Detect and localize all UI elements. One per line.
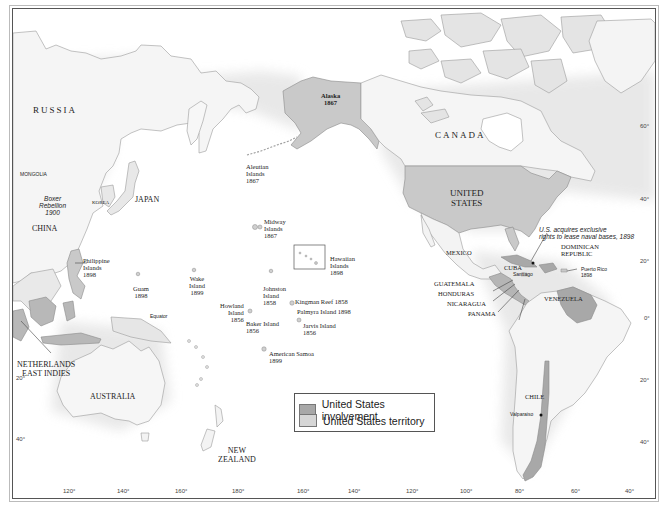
lat-tick-right: 40°	[640, 439, 649, 445]
lat-tick-right: 20°	[640, 377, 649, 383]
lon-tick: 100°	[460, 488, 472, 494]
asia-landmass	[13, 31, 259, 283]
label-australia: AUSTRALIA	[90, 393, 135, 402]
label-china: CHINA	[32, 225, 57, 234]
label-nicaragua: NICARAGUA	[447, 300, 486, 307]
jarvis-dot	[297, 318, 301, 322]
label-united-states: UNITED STATES	[450, 189, 484, 209]
lon-tick: 140°	[348, 488, 360, 494]
label-puerto-rico: Puerto Rico 1898	[581, 267, 607, 278]
label-santiago: Santiago	[513, 272, 533, 278]
label-johnston-island: Johnston Island 1858	[263, 285, 286, 306]
lon-tick: 60°	[571, 488, 580, 494]
samoa-dot	[262, 347, 266, 351]
lon-tick: 140°	[117, 488, 129, 494]
legend-label-territory: United States territory	[323, 415, 425, 427]
label-mongolia: MONGOLIA	[20, 172, 47, 178]
johnston-dot	[269, 269, 273, 273]
lon-tick: 180°	[232, 488, 244, 494]
label-equator: Equator	[150, 314, 168, 320]
label-aleutian-islands: Aleutian Islands 1867	[246, 163, 268, 184]
howland-dot	[248, 309, 252, 313]
map-legend: United States involvement United States …	[294, 393, 435, 432]
lon-tick: 80°	[515, 488, 524, 494]
lon-tick: 120°	[406, 488, 418, 494]
label-new-zealand: NEW ZEALAND	[218, 447, 256, 465]
label-jarvis-island: Jarvis Island 1856	[303, 322, 336, 336]
label-wake-island: Wake Island 1899	[189, 275, 205, 296]
label-korea: KOREA	[92, 200, 109, 206]
lat-tick-left: 20°	[16, 375, 25, 381]
lon-tick: 160°	[175, 488, 187, 494]
label-honduras: HONDURAS	[438, 290, 474, 297]
label-mexico: MEXICO	[446, 249, 472, 256]
lat-tick-right: 0°	[644, 315, 650, 321]
lat-tick-right: 60°	[640, 123, 649, 129]
label-palmyra-island: Palmyra Island 1898	[297, 308, 351, 315]
label-kingman-reef: Kingman Reef 1858	[295, 298, 348, 305]
label-chile: CHILE	[525, 393, 544, 400]
lat-tick-right: 20°	[640, 258, 649, 264]
label-naval-bases-note: U.S. acquires exclusive rights to lease …	[539, 226, 634, 240]
valparaiso-dot	[540, 414, 543, 417]
santiago-dot	[532, 262, 535, 265]
label-alaska: Alaska 1867	[321, 92, 340, 106]
label-dominican-republic: DOMINICAN REPUBLIC	[561, 243, 599, 257]
legend-swatch-territory	[299, 414, 317, 427]
label-venezuela: VENEZUELA	[544, 295, 583, 302]
label-guatemala: GUATEMALA	[434, 280, 474, 287]
label-howland-island: Howland Island 1856	[220, 302, 244, 323]
label-philippine-islands: Philippine Islands 1898	[83, 257, 110, 278]
label-hawaiian-islands: Hawaiian Islands 1898	[330, 255, 355, 276]
label-russia: RUSSIA	[33, 106, 77, 116]
lat-tick-left: 40°	[16, 436, 25, 442]
legend-item-territory: United States territory	[299, 414, 425, 427]
label-guam: Guam 1898	[133, 285, 149, 299]
hawaiian-islands-box	[294, 245, 325, 269]
label-baker-island: Baker Island 1856	[246, 320, 279, 334]
label-midway-islands: Midway Islands 1867	[264, 218, 286, 239]
lon-tick: 40°	[625, 488, 634, 494]
label-netherlands-east-indies: NETHERLANDS EAST INDIES	[17, 361, 75, 379]
label-american-samoa: American Samoa 1899	[269, 350, 314, 364]
lon-tick: 160°	[297, 488, 309, 494]
guam-dot	[136, 272, 140, 276]
label-canada: CANADA	[435, 131, 486, 141]
kingman-dot	[290, 301, 294, 305]
wake-dot	[192, 268, 196, 272]
midway-dot	[253, 225, 258, 230]
label-panama: PANAMA	[468, 310, 496, 317]
lon-tick: 120°	[63, 488, 75, 494]
label-valparaiso: Valparaiso	[510, 412, 533, 418]
new-zealand-landmass	[201, 405, 223, 451]
lat-tick-right: 40°	[640, 196, 649, 202]
label-boxer-rebellion: Boxer Rebellion 1900	[39, 195, 66, 216]
label-japan: JAPAN	[135, 196, 159, 205]
